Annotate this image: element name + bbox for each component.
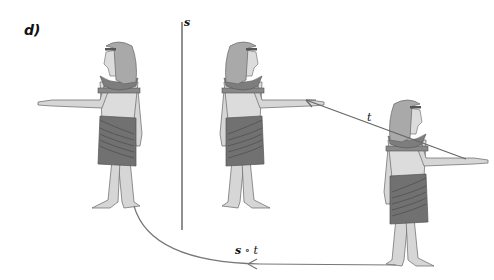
diagram-canvas: d) s t s ∘ t xyxy=(0,0,494,280)
composition-label: s ∘ t xyxy=(235,244,258,257)
panel-label: d) xyxy=(24,22,40,38)
mirror-line-label: s xyxy=(184,16,190,29)
reflected-figure xyxy=(220,42,324,208)
translated-figure xyxy=(384,100,488,266)
original-figure xyxy=(38,42,142,208)
composition-label-t: t xyxy=(254,244,258,257)
composition-operator: ∘ xyxy=(241,244,253,257)
translation-label: t xyxy=(367,111,371,124)
composition-arrow xyxy=(134,206,396,269)
diagram-svg xyxy=(0,0,494,280)
